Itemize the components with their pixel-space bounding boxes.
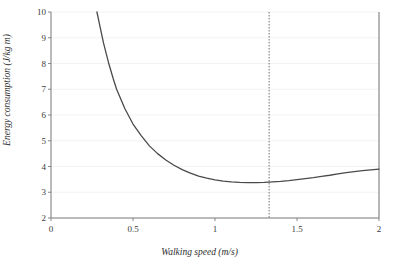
y-tick-label: 2 xyxy=(24,213,46,223)
x-tick-label: 1.5 xyxy=(291,224,302,234)
x-tick-label: 0.5 xyxy=(127,224,138,234)
x-axis-title: Walking speed (m/s) xyxy=(0,247,399,257)
y-tick-label: 4 xyxy=(24,162,46,172)
y-tick-label: 9 xyxy=(24,33,46,43)
y-axis-title: Energy consumption (J/kg m) xyxy=(2,0,16,190)
x-tick-label: 1 xyxy=(213,224,218,234)
plot-area xyxy=(0,0,399,262)
energy-consumption-chart: 2345678910 00.511.52 Walking speed (m/s)… xyxy=(0,0,399,262)
y-tick-label: 8 xyxy=(24,59,46,69)
y-tick-label: 5 xyxy=(24,136,46,146)
y-tick-label: 7 xyxy=(24,84,46,94)
y-tick-label: 3 xyxy=(24,187,46,197)
tick-marks-group xyxy=(48,12,379,221)
x-tick-label: 0 xyxy=(49,224,54,234)
x-tick-label: 2 xyxy=(377,224,382,234)
gridlines-group xyxy=(51,12,379,192)
y-tick-label: 6 xyxy=(24,110,46,120)
y-tick-label: 10 xyxy=(24,7,46,17)
